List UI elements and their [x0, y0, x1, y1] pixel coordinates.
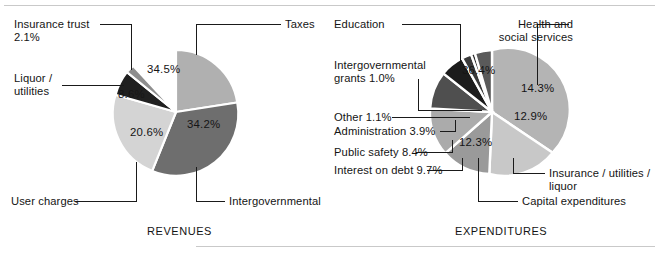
callout-administration: Administration 3.9%	[334, 125, 435, 138]
value-label-intergovernmental: 34.2%	[187, 118, 220, 130]
callout-intergovernmental: Intergovernmental	[229, 195, 321, 208]
value-label-education: 36.4%	[462, 64, 495, 76]
value-label-health-social-services: 14.3%	[521, 82, 554, 94]
callout-capital-expenditures: Capital expenditures	[522, 195, 626, 208]
callout-public-safety: Public safety 8.4%	[334, 146, 428, 159]
value-label-capital-expenditures: 12.3%	[459, 136, 492, 148]
value-label-taxes: 34.5%	[147, 63, 180, 75]
slice-taxes[interactable]	[176, 50, 237, 112]
callout-user-charges: User charges	[11, 195, 79, 208]
leader-insurance-trust	[100, 24, 131, 70]
chart-title-revenues: REVENUES	[147, 225, 212, 237]
callout-insurance-trust: Insurance trust 2.1%	[14, 18, 90, 43]
value-label-liquor-utilities: 8.6%	[118, 88, 145, 100]
value-label-insurance-utilities-liquor: 12.9%	[514, 110, 547, 122]
callout-other: Other 1.1%	[334, 111, 392, 124]
callout-liquor-utilities: Liquor / utilities	[14, 72, 52, 97]
expenditures-pie	[430, 48, 570, 176]
callout-intergovernmental-grants: Intergovernmental grants 1.0%	[334, 59, 426, 84]
callout-insurance-utilities-liquor: Insurance / utilities / liquor	[549, 167, 650, 192]
leader-taxes	[196, 24, 281, 55]
chart-title-expenditures: EXPENDITURES	[455, 225, 547, 237]
callout-education: Education	[334, 18, 385, 31]
callout-taxes: Taxes	[285, 18, 315, 31]
callout-interest-on-debt: Interest on debt 9.7%	[334, 164, 442, 177]
callout-health-social-services: Health and social services	[492, 18, 573, 43]
leader-user-charges	[75, 162, 136, 201]
value-label-user-charges: 20.6%	[130, 126, 163, 138]
two-pie-chart-figure: 34.5% 34.2% 20.6% 8.6% 36.4% 14.3% 12.9%…	[0, 0, 659, 256]
